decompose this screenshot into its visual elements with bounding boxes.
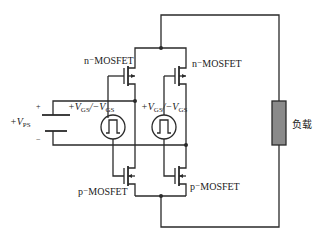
n-mosfet-right-label: n⁻MOSFET (192, 58, 242, 69)
load-label: 负载 (292, 118, 312, 130)
supply-plus-sign: + (36, 102, 41, 111)
bottom-rail (135, 194, 186, 198)
p-mosfet-right-label: p⁻MOSFET (190, 181, 240, 192)
supply-label: +VPS (10, 116, 31, 129)
load-loop-wires (161, 15, 279, 227)
circuit-diagram: 负载 n⁻MOSFET n⁻MOSFET (0, 0, 325, 241)
p-mosfet-left-label: p⁻MOSFET (78, 186, 128, 197)
p-mosfet-right (164, 165, 186, 196)
upper-rail (135, 46, 186, 65)
load-resistor (272, 101, 286, 145)
pulse-source-right (152, 115, 176, 165)
n-mosfet-left-label: n⁻MOSFET (84, 55, 134, 66)
dc-supply-battery (42, 115, 70, 131)
supply-minus-sign: − (36, 135, 41, 144)
pulse-source-left (101, 115, 125, 165)
